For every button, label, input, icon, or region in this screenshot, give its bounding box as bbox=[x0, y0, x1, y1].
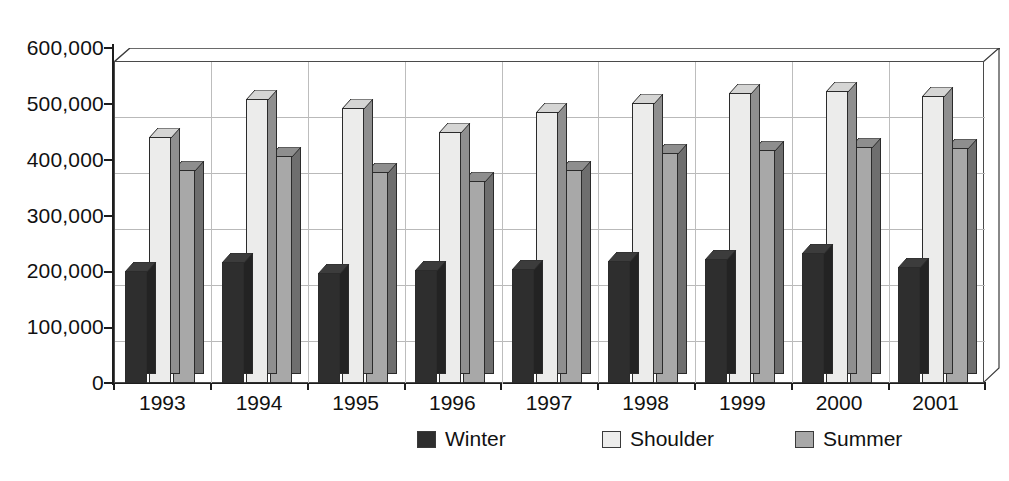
plot-top-slab bbox=[114, 48, 1000, 62]
bar-side bbox=[678, 144, 687, 374]
bar-side bbox=[147, 262, 156, 374]
bar-side bbox=[461, 123, 470, 374]
y-tick-label: 600,000 bbox=[27, 37, 104, 58]
x-tick-label: 1993 bbox=[114, 392, 211, 414]
bar-side bbox=[848, 82, 857, 374]
x-tick-mark bbox=[307, 383, 309, 390]
bar-side bbox=[582, 161, 591, 374]
bar-side bbox=[920, 258, 929, 374]
bar-side bbox=[630, 252, 639, 374]
bar-winter-1998 bbox=[608, 251, 639, 383]
y-tick-label: 200,000 bbox=[27, 260, 104, 281]
bar-face bbox=[222, 262, 244, 383]
x-tick-label: 2001 bbox=[887, 392, 984, 414]
bar-side bbox=[727, 250, 736, 374]
bar-face bbox=[898, 267, 920, 383]
y-tick-label: 400,000 bbox=[27, 149, 104, 170]
chart-legend: Winter Shoulder Summer bbox=[0, 426, 1009, 456]
bar-side bbox=[171, 128, 180, 374]
x-tick-label: 1995 bbox=[307, 392, 404, 414]
legend-label: Shoulder bbox=[630, 428, 714, 450]
bar-face bbox=[705, 259, 727, 383]
bar-winter-1997 bbox=[512, 259, 543, 383]
bar-side bbox=[437, 261, 446, 374]
bar-side bbox=[968, 139, 977, 374]
bar-side bbox=[872, 138, 881, 374]
x-tick-label: 1997 bbox=[501, 392, 598, 414]
legend-swatch-shoulder-icon bbox=[602, 431, 621, 448]
x-tick-label: 1998 bbox=[597, 392, 694, 414]
y-tick-label: 300,000 bbox=[27, 205, 104, 226]
x-tick-mark bbox=[694, 383, 696, 390]
bar-winter-1995 bbox=[318, 263, 349, 383]
x-tick-mark bbox=[791, 383, 793, 390]
legend-swatch-summer-icon bbox=[795, 431, 814, 448]
bar-face bbox=[608, 261, 630, 383]
bar-face bbox=[512, 269, 534, 383]
bar-side bbox=[364, 99, 373, 374]
x-tick-mark bbox=[597, 383, 599, 390]
bar-side bbox=[340, 264, 349, 374]
bar-winter-1996 bbox=[415, 260, 446, 383]
x-tick-mark bbox=[984, 383, 986, 390]
bar-side bbox=[534, 260, 543, 374]
legend-item-shoulder: Shoulder bbox=[602, 426, 714, 452]
bar-side bbox=[268, 90, 277, 374]
plot-area bbox=[114, 48, 1000, 383]
y-tick-label: 0 bbox=[92, 372, 104, 393]
legend-item-summer: Summer bbox=[795, 426, 902, 452]
legend-label: Winter bbox=[445, 428, 506, 450]
bar-chart: 600,000 500,000 400,000 300,000 200,000 … bbox=[0, 0, 1009, 481]
x-tick-mark bbox=[500, 383, 502, 390]
bar-winter-1999 bbox=[705, 249, 736, 383]
y-axis-labels: 600,000 500,000 400,000 300,000 200,000 … bbox=[0, 0, 104, 481]
x-tick-mark bbox=[888, 383, 890, 390]
bars-layer bbox=[114, 61, 984, 383]
x-tick-label: 1996 bbox=[404, 392, 501, 414]
y-tick-label: 500,000 bbox=[27, 93, 104, 114]
plot-right-slab bbox=[983, 48, 1000, 383]
x-tick-label: 1999 bbox=[694, 392, 791, 414]
x-tick-label: 2000 bbox=[791, 392, 888, 414]
bar-side bbox=[775, 141, 784, 374]
bar-winter-2001 bbox=[898, 257, 929, 383]
legend-item-winter: Winter bbox=[417, 426, 506, 452]
bar-face bbox=[125, 271, 147, 383]
x-tick-mark bbox=[210, 383, 212, 390]
x-tick-mark bbox=[404, 383, 406, 390]
bar-winter-1994 bbox=[222, 252, 253, 383]
bar-side bbox=[244, 253, 253, 374]
bar-side bbox=[751, 84, 760, 374]
legend-swatch-winter-icon bbox=[417, 431, 436, 448]
y-tick-label: 100,000 bbox=[27, 316, 104, 337]
bar-winter-1993 bbox=[125, 261, 156, 383]
bar-side bbox=[195, 161, 204, 374]
bar-face bbox=[802, 253, 824, 383]
bar-side bbox=[292, 147, 301, 374]
bar-side bbox=[824, 244, 833, 374]
bar-side bbox=[388, 163, 397, 374]
x-tick-label: 1994 bbox=[211, 392, 308, 414]
bar-side bbox=[944, 87, 953, 374]
bar-face bbox=[415, 270, 437, 383]
bar-side bbox=[485, 172, 494, 374]
bar-face bbox=[318, 273, 340, 383]
bar-side bbox=[558, 103, 567, 374]
x-tick-mark bbox=[113, 383, 115, 390]
legend-label: Summer bbox=[823, 428, 902, 450]
bar-side bbox=[654, 94, 663, 374]
bar-winter-2000 bbox=[802, 243, 833, 383]
